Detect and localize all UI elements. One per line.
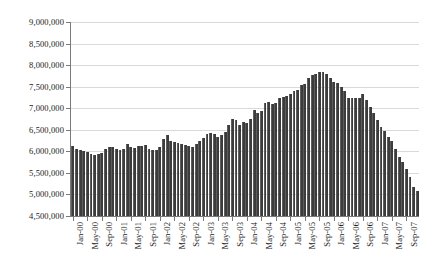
y-tick-mark	[66, 151, 71, 152]
x-tick-label: Jan-03	[207, 222, 216, 245]
x-tick-mark	[102, 216, 103, 221]
x-tick-mark	[392, 216, 393, 221]
bar	[311, 75, 314, 216]
bar	[412, 187, 415, 216]
bar	[133, 148, 136, 216]
y-axis-labels: 4,500,0005,000,0005,500,0006,000,0006,50…	[0, 0, 64, 271]
y-tick-label: 8,500,000	[0, 40, 64, 49]
bar	[224, 132, 227, 216]
bar	[300, 85, 303, 216]
bar	[75, 149, 78, 216]
x-tick-mark	[174, 216, 175, 221]
bar	[242, 122, 245, 216]
bar	[93, 155, 96, 216]
x-tick-mark	[145, 216, 146, 221]
bar	[97, 154, 100, 216]
bar	[358, 98, 361, 216]
bar	[271, 104, 274, 216]
bar	[376, 120, 379, 216]
bar	[126, 144, 129, 216]
y-tick-label: 6,500,000	[0, 126, 64, 135]
y-tick-mark	[66, 194, 71, 195]
x-tick-mark	[334, 216, 335, 221]
bar	[314, 74, 317, 216]
x-tick-label: May-02	[178, 222, 187, 250]
bar	[296, 90, 299, 216]
x-tick-label: Sep-00	[105, 222, 114, 247]
x-tick-mark	[305, 216, 306, 221]
x-tick-label: Sep-03	[236, 222, 245, 247]
bar	[216, 137, 219, 216]
y-tick-label: 5,500,000	[0, 169, 64, 178]
x-tick-mark	[232, 216, 233, 221]
y-tick-label: 7,500,000	[0, 83, 64, 92]
bar	[260, 111, 263, 216]
bar	[108, 147, 111, 216]
bar	[361, 94, 364, 216]
bar	[71, 146, 74, 216]
bar	[86, 152, 89, 216]
x-tick-mark	[160, 216, 161, 221]
bar	[343, 91, 346, 216]
bar	[256, 113, 259, 216]
bar-chart: 4,500,0005,000,0005,500,0006,000,0006,50…	[0, 0, 435, 271]
bar	[351, 98, 354, 216]
bar	[166, 135, 169, 216]
x-tick-mark	[261, 216, 262, 221]
y-tick-mark	[66, 173, 71, 174]
bar	[184, 145, 187, 216]
bar	[202, 138, 205, 216]
bar	[282, 97, 285, 216]
bar	[148, 149, 151, 216]
y-tick-mark	[66, 108, 71, 109]
bar	[169, 141, 172, 216]
x-tick-label: Jan-04	[250, 222, 259, 245]
y-tick-label: 7,000,000	[0, 104, 64, 113]
bar	[394, 149, 397, 216]
bar	[245, 123, 248, 216]
bar	[220, 135, 223, 216]
bar	[369, 107, 372, 216]
x-tick-mark	[116, 216, 117, 221]
bar	[206, 134, 209, 216]
bar	[278, 98, 281, 216]
bar	[398, 157, 401, 216]
bar	[119, 150, 122, 216]
bar	[285, 96, 288, 216]
x-tick-mark	[131, 216, 132, 221]
x-tick-label: Sep-06	[366, 222, 375, 247]
x-tick-label: Sep-05	[323, 222, 332, 247]
bar	[347, 98, 350, 216]
y-tick-mark	[66, 44, 71, 45]
bar	[115, 149, 118, 216]
bar	[162, 139, 165, 216]
bar	[90, 154, 93, 216]
bar	[140, 146, 143, 216]
x-tick-label: Jan-02	[163, 222, 172, 245]
x-tick-label: Jan-07	[381, 222, 390, 245]
x-tick-label: Sep-02	[192, 222, 201, 247]
x-tick-label: May-06	[352, 222, 361, 250]
x-tick-mark	[73, 216, 74, 221]
bar	[325, 74, 328, 216]
bar	[354, 98, 357, 216]
x-tick-mark	[247, 216, 248, 221]
y-tick-mark	[66, 216, 71, 217]
y-tick-mark	[66, 130, 71, 131]
bar	[177, 143, 180, 216]
bar	[79, 150, 82, 216]
y-tick-label: 4,500,000	[0, 212, 64, 221]
bar	[104, 149, 107, 216]
bar	[209, 133, 212, 216]
y-tick-label: 8,000,000	[0, 61, 64, 70]
y-tick-mark	[66, 65, 71, 66]
bar	[372, 113, 375, 216]
x-tick-label: Jan-00	[76, 222, 85, 245]
x-tick-mark	[203, 216, 204, 221]
bar	[365, 100, 368, 216]
bar	[173, 142, 176, 216]
bar	[318, 72, 321, 216]
bar	[336, 83, 339, 216]
bar	[180, 144, 183, 216]
bar	[187, 146, 190, 216]
